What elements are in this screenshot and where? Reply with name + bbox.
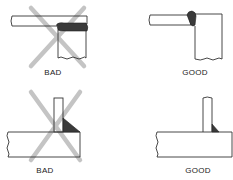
verdict-label-good: GOOD bbox=[182, 68, 208, 77]
verdict-label-bad: BAD bbox=[36, 166, 53, 175]
weld-bead bbox=[57, 23, 88, 31]
weld-fillet bbox=[63, 118, 80, 132]
vertical-plate bbox=[203, 97, 212, 132]
weld-diagram bbox=[0, 0, 233, 180]
panel-top-left-bad bbox=[11, 8, 88, 66]
panel-top-right-good bbox=[149, 11, 222, 60]
weld-fillet bbox=[212, 124, 219, 132]
verdict-label-bad: BAD bbox=[44, 68, 61, 77]
vertical-block bbox=[195, 14, 222, 60]
panel-bottom-left-bad bbox=[7, 92, 80, 160]
base-plate bbox=[156, 132, 232, 157]
verdict-label-good: GOOD bbox=[185, 166, 211, 175]
cross-out-x-icon bbox=[31, 8, 84, 66]
horizontal-plate bbox=[149, 15, 191, 25]
panel-bottom-right-good bbox=[156, 97, 232, 157]
weld-bead bbox=[187, 11, 196, 26]
